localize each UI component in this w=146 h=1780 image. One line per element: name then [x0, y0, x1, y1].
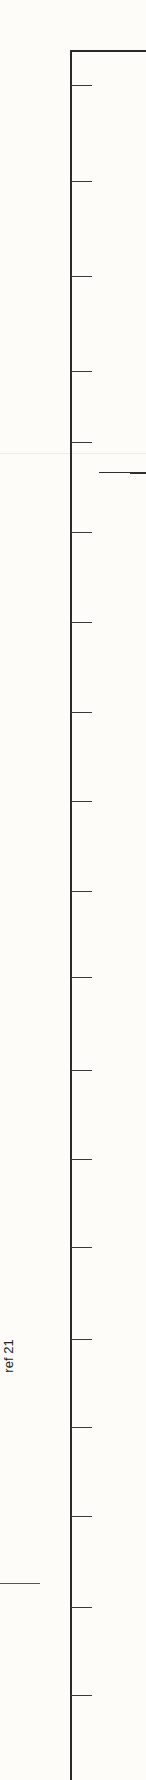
- y-axis-tick: [71, 1247, 92, 1248]
- y-axis-tick: [71, 622, 92, 623]
- y-axis-tick: [71, 891, 92, 892]
- page-crease: [0, 453, 146, 454]
- y-axis-tick: [71, 442, 92, 443]
- data-segment-thick: [130, 472, 146, 474]
- y-axis-tick: [71, 181, 92, 182]
- y-axis-tick: [71, 801, 92, 802]
- y-axis-line: [70, 50, 72, 1780]
- y-axis-tick: [71, 1159, 92, 1160]
- y-axis-tick: [71, 371, 92, 372]
- y-axis-tick: [71, 1339, 92, 1340]
- y-axis-tick: [71, 276, 92, 277]
- plot-frame-top-border: [70, 50, 146, 52]
- y-axis-tick: [71, 1607, 92, 1608]
- y-axis-tick: [71, 1516, 92, 1517]
- y-axis-tick: [71, 977, 92, 978]
- y-axis-tick: [71, 85, 92, 86]
- y-axis-tick: [71, 712, 92, 713]
- y-axis-tick: [71, 1427, 92, 1428]
- y-axis-tick: [71, 1695, 92, 1696]
- reference-marker-line: [0, 1583, 40, 1584]
- y-axis-tick: [71, 532, 92, 533]
- reference-label: ref 21: [2, 1333, 16, 1379]
- y-axis-tick: [71, 1070, 92, 1071]
